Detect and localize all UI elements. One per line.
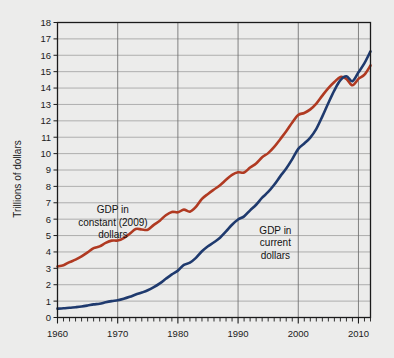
gdp-line-chart: 0123456789101112131415161718 19601970198…	[0, 0, 394, 358]
y-tick-label: 5	[46, 230, 51, 241]
x-tick-label: 1960	[47, 328, 68, 339]
y-tick-label: 3	[46, 263, 51, 274]
y-tick-label: 10	[40, 148, 51, 159]
y-tick-label: 18	[40, 17, 51, 28]
y-tick-label: 12	[40, 115, 51, 126]
annotation-line: GDP in	[259, 225, 291, 236]
y-axis-title: Trillions of dollars	[12, 140, 23, 217]
x-tick-label: 1990	[228, 328, 249, 339]
annotation-line: constant (2009)	[78, 217, 148, 228]
x-tick-label: 1970	[107, 328, 128, 339]
y-tick-label: 13	[40, 99, 51, 110]
y-tick-label: 14	[40, 82, 51, 93]
annotation-current-dollars: GDP incurrentdollars	[259, 225, 291, 261]
y-tick-label: 17	[40, 33, 51, 44]
y-tick-label: 15	[40, 66, 51, 77]
y-tick-label: 2	[46, 279, 51, 290]
annotation-line: GDP in	[97, 204, 129, 215]
y-tick-label: 11	[41, 132, 51, 143]
annotation-line: dollars	[261, 250, 290, 261]
y-tick-label: 6	[46, 214, 51, 225]
y-tick-label: 4	[46, 246, 51, 257]
y-tick-label: 16	[40, 50, 51, 61]
y-tick-label: 1	[46, 296, 51, 307]
annotation-line: dollars	[98, 229, 127, 240]
y-tick-label: 8	[46, 181, 51, 192]
x-tick-label: 1980	[167, 328, 188, 339]
annotation-line: current	[260, 237, 291, 248]
y-tick-label: 7	[46, 197, 51, 208]
x-tick-label: 2010	[348, 328, 369, 339]
x-tick-label: 2000	[288, 328, 309, 339]
y-tick-label: 0	[46, 312, 51, 323]
y-tick-label: 9	[46, 164, 51, 175]
